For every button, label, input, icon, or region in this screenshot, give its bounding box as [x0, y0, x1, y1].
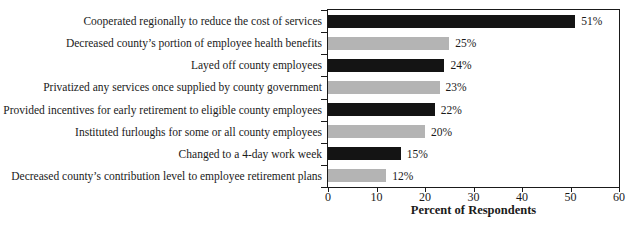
- bar-value-label: 12%: [392, 165, 413, 187]
- y-axis-tick: [321, 99, 327, 100]
- bar: [328, 169, 386, 182]
- bar: [328, 15, 575, 28]
- bar: [328, 81, 440, 94]
- y-axis-tick: [321, 54, 327, 55]
- bar-value-label: 25%: [455, 32, 476, 54]
- y-axis-tick: [321, 10, 327, 11]
- y-axis-tick: [321, 165, 327, 166]
- category-label: Layed off county employees: [0, 54, 322, 76]
- y-axis-tick: [321, 76, 327, 77]
- category-label: Provided incentives for early retirement…: [0, 99, 322, 121]
- bar-value-label: 22%: [441, 99, 462, 121]
- y-axis-tick: [321, 187, 327, 188]
- category-label: Privatized any services once supplied by…: [0, 76, 322, 98]
- bar: [328, 125, 425, 138]
- y-axis-tick: [321, 121, 327, 122]
- bar: [328, 103, 435, 116]
- category-label: Cooperated regionally to reduce the cost…: [0, 10, 322, 32]
- bar: [328, 59, 444, 72]
- bar: [328, 37, 449, 50]
- category-label: Changed to a 4-day work week: [0, 143, 322, 165]
- y-axis-tick: [321, 143, 327, 144]
- bar-value-label: 15%: [407, 143, 428, 165]
- category-label: Decreased county’s contribution level to…: [0, 165, 322, 187]
- bar-chart-figure: Cooperated regionally to reduce the cost…: [0, 0, 635, 231]
- category-label: Decreased county’s portion of employee h…: [0, 32, 322, 54]
- bar-value-label: 24%: [450, 54, 471, 76]
- bar-value-label: 51%: [581, 10, 602, 32]
- y-axis-tick: [321, 32, 327, 33]
- bar-value-label: 20%: [431, 121, 452, 143]
- bar-value-label: 23%: [446, 76, 467, 98]
- category-label: Instituted furloughs for some or all cou…: [0, 121, 322, 143]
- bar: [328, 147, 401, 160]
- x-axis-title: Percent of Respondents: [327, 203, 620, 218]
